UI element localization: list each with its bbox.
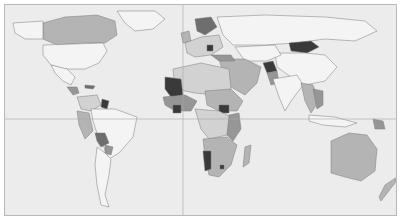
country-cuba-caribbean[interactable] (85, 85, 95, 89)
country-east-africa[interactable] (227, 113, 241, 141)
country-turkey-caucasus[interactable] (211, 55, 235, 61)
country-greenland[interactable] (117, 11, 165, 31)
country-papua-new-guinea[interactable] (373, 119, 385, 129)
country-united-states[interactable] (43, 43, 107, 69)
country-alaska[interactable] (13, 21, 43, 39)
country-central-america[interactable] (67, 87, 79, 95)
country-central-africa[interactable] (195, 109, 231, 139)
country-mongolia[interactable] (289, 41, 319, 53)
world-map[interactable] (4, 4, 397, 216)
country-mauritania-mali[interactable] (165, 77, 183, 97)
country-australia[interactable] (331, 133, 377, 181)
country-indonesia[interactable] (309, 115, 357, 127)
country-kazakhstan-central-asia[interactable] (235, 45, 281, 61)
country-regions (13, 11, 397, 207)
country-russia[interactable] (217, 15, 377, 45)
country-new-zealand[interactable] (379, 177, 397, 201)
country-sierra-leone-liberia[interactable] (173, 105, 181, 113)
country-colombia-venezuela[interactable] (77, 95, 101, 111)
country-madagascar[interactable] (243, 145, 251, 167)
country-peru-ecuador[interactable] (77, 111, 93, 139)
country-scandinavia[interactable] (195, 17, 217, 35)
country-guyana[interactable] (101, 99, 109, 109)
country-namibia[interactable] (203, 151, 211, 171)
country-canada[interactable] (43, 15, 117, 45)
country-lesotho[interactable] (220, 165, 224, 169)
map-canvas[interactable] (5, 5, 397, 216)
country-balkans[interactable] (207, 45, 213, 51)
country-india[interactable] (273, 75, 303, 111)
